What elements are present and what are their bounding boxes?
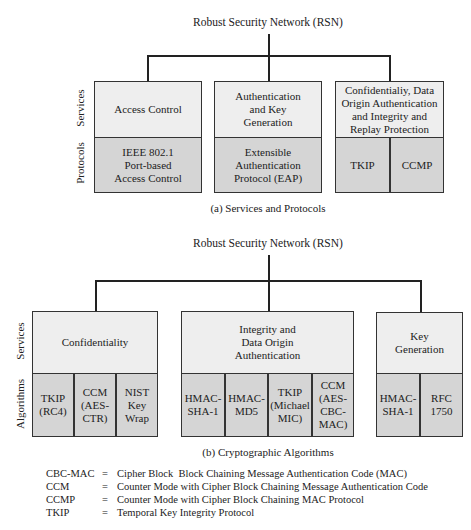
service-box-integrity: Integrity and Data Origin Authentication…	[181, 311, 354, 437]
legend-equals: =	[102, 493, 117, 506]
algorithm-cell: HMAC- SHA-1	[377, 374, 419, 436]
connector	[268, 55, 270, 82]
connector	[268, 280, 270, 312]
legend-row: CCMP = Counter Mode with Cipher Block Ch…	[46, 493, 428, 506]
legend-term: TKIP	[46, 506, 102, 519]
service-cell: Confidentiality	[33, 312, 157, 373]
legend-row: TKIP = Temporal Key Integrity Protocol	[46, 506, 428, 519]
connector	[389, 55, 391, 82]
connector	[268, 255, 270, 281]
service-box-access-control: Access Control IEEE 802.1 Port-based Acc…	[94, 81, 202, 193]
row-label-services: Services	[74, 78, 86, 138]
algorithm-cell: HMAC- MD5	[226, 374, 267, 436]
connector	[268, 34, 270, 56]
service-cell: Authentication and Key Generation	[215, 82, 321, 137]
algorithm-cell: TKIP (RC4)	[33, 374, 73, 436]
algorithm-cell: RFC 1750	[421, 374, 462, 436]
algorithm-cell: NIST Key Wrap	[117, 374, 157, 436]
legend-definition: Counter Mode with Cipher Block Chaining …	[117, 493, 364, 506]
connector	[95, 280, 97, 312]
protocol-cell-tkip: TKIP	[336, 138, 389, 192]
row-label-services: Services	[14, 311, 26, 371]
legend-row: CBC-MAC = Cipher Block Block Chaining Me…	[46, 467, 428, 480]
protocol-cell: IEEE 802.1 Port-based Access Control	[95, 138, 201, 192]
legend-equals: =	[102, 467, 117, 480]
legend-row: CCM = Counter Mode with Cipher Block Cha…	[46, 480, 428, 493]
connector	[147, 55, 149, 82]
legend-equals: =	[102, 480, 117, 493]
legend-term: CBC-MAC	[46, 467, 102, 480]
abbreviation-legend: CBC-MAC = Cipher Block Block Chaining Me…	[46, 467, 428, 519]
algorithm-cell: TKIP (Michael MIC)	[269, 374, 311, 436]
row-label-algorithms: Algorithms	[14, 374, 26, 434]
connector	[420, 280, 422, 312]
diagram-a-title: Robust Security Network (RSN)	[168, 16, 368, 28]
service-cell: Key Generation	[377, 313, 462, 373]
diagram-b-caption: (b) Cryptographic Algorithms	[168, 446, 368, 458]
legend-term: CCM	[46, 480, 102, 493]
service-box-confidentiality: Confidentiality TKIP (RC4) CCM (AES- CTR…	[32, 311, 158, 437]
connector	[95, 280, 421, 282]
service-cell: Confidentialiy, Data Origin Authenticati…	[336, 82, 443, 137]
service-box-key-generation: Key Generation HMAC- SHA-1 RFC 1750	[376, 312, 463, 437]
row-label-protocols: Protocols	[74, 133, 86, 193]
service-cell: Integrity and Data Origin Authentication	[182, 312, 353, 373]
diagram-b-title: Robust Security Network (RSN)	[168, 237, 368, 249]
protocol-cell: Extensible Authentication Protocol (EAP)	[215, 138, 321, 192]
legend-definition: Cipher Block Block Chaining Message Auth…	[117, 467, 407, 480]
service-box-confidentiality: Confidentialiy, Data Origin Authenticati…	[335, 81, 444, 193]
legend-definition: Counter Mode with Cipher Block Chaining …	[117, 480, 428, 493]
legend-equals: =	[102, 506, 117, 519]
service-cell: Access Control	[95, 82, 201, 137]
algorithm-cell: HMAC- SHA-1	[182, 374, 224, 436]
legend-term: CCMP	[46, 493, 102, 506]
legend-definition: Temporal Key Integrity Protocol	[117, 506, 254, 519]
service-box-auth-key-gen: Authentication and Key Generation Extens…	[214, 81, 322, 193]
algorithm-cell: CCM (AES- CTR)	[75, 374, 115, 436]
algorithm-cell: CCM (AES- CBC- MAC)	[313, 374, 353, 436]
protocol-cell-ccmp: CCMP	[391, 138, 443, 192]
diagram-a-caption: (a) Services and Protocols	[168, 202, 368, 214]
